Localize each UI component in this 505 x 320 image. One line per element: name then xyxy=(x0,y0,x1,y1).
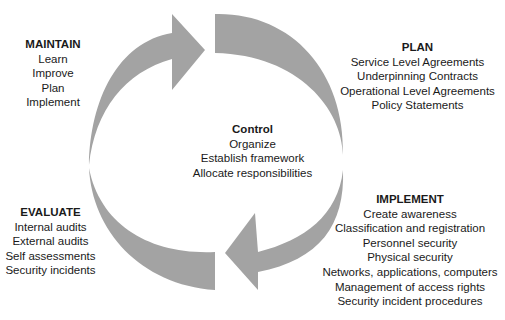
implement-item: Classification and registration xyxy=(320,221,500,236)
implement-item: Physical security xyxy=(320,250,500,265)
implement-item: Networks, applications, computers xyxy=(320,265,500,280)
maintain-block: MAINTAIN Learn Improve Plan Implement xyxy=(18,37,88,110)
maintain-item: Plan xyxy=(18,81,88,96)
plan-block: PLAN Service Level Agreements Underpinni… xyxy=(335,40,500,113)
evaluate-title: EVALUATE xyxy=(3,205,98,220)
maintain-item: Learn xyxy=(18,52,88,67)
plan-item: Service Level Agreements xyxy=(335,55,500,70)
implement-item: Personnel security xyxy=(320,236,500,251)
evaluate-item: Internal audits xyxy=(3,220,98,235)
maintain-item: Implement xyxy=(18,95,88,110)
implement-item: Security incident procedures xyxy=(320,294,500,309)
control-item: Establish framework xyxy=(175,151,330,166)
evaluate-item: Security incidents xyxy=(3,263,98,278)
implement-item: Create awareness xyxy=(320,207,500,222)
maintain-item: Improve xyxy=(18,66,88,81)
control-title: Control xyxy=(175,122,330,137)
plan-item: Policy Statements xyxy=(335,98,500,113)
maintain-title: MAINTAIN xyxy=(18,37,88,52)
evaluate-item: Self assessments xyxy=(3,249,98,264)
implement-block: IMPLEMENT Create awareness Classificatio… xyxy=(320,192,500,309)
arc-evaluate-to-maintain xyxy=(89,168,215,290)
control-item: Allocate responsibilities xyxy=(175,166,330,181)
evaluate-block: EVALUATE Internal audits External audits… xyxy=(3,205,98,278)
evaluate-item: External audits xyxy=(3,234,98,249)
plan-item: Operational Level Agreements xyxy=(335,84,500,99)
implement-item: Management of access rights xyxy=(320,280,500,295)
control-item: Organize xyxy=(175,137,330,152)
control-block: Control Organize Establish framework All… xyxy=(175,122,330,180)
plan-title: PLAN xyxy=(335,40,500,55)
plan-item: Underpinning Contracts xyxy=(335,69,500,84)
implement-title: IMPLEMENT xyxy=(320,192,500,207)
